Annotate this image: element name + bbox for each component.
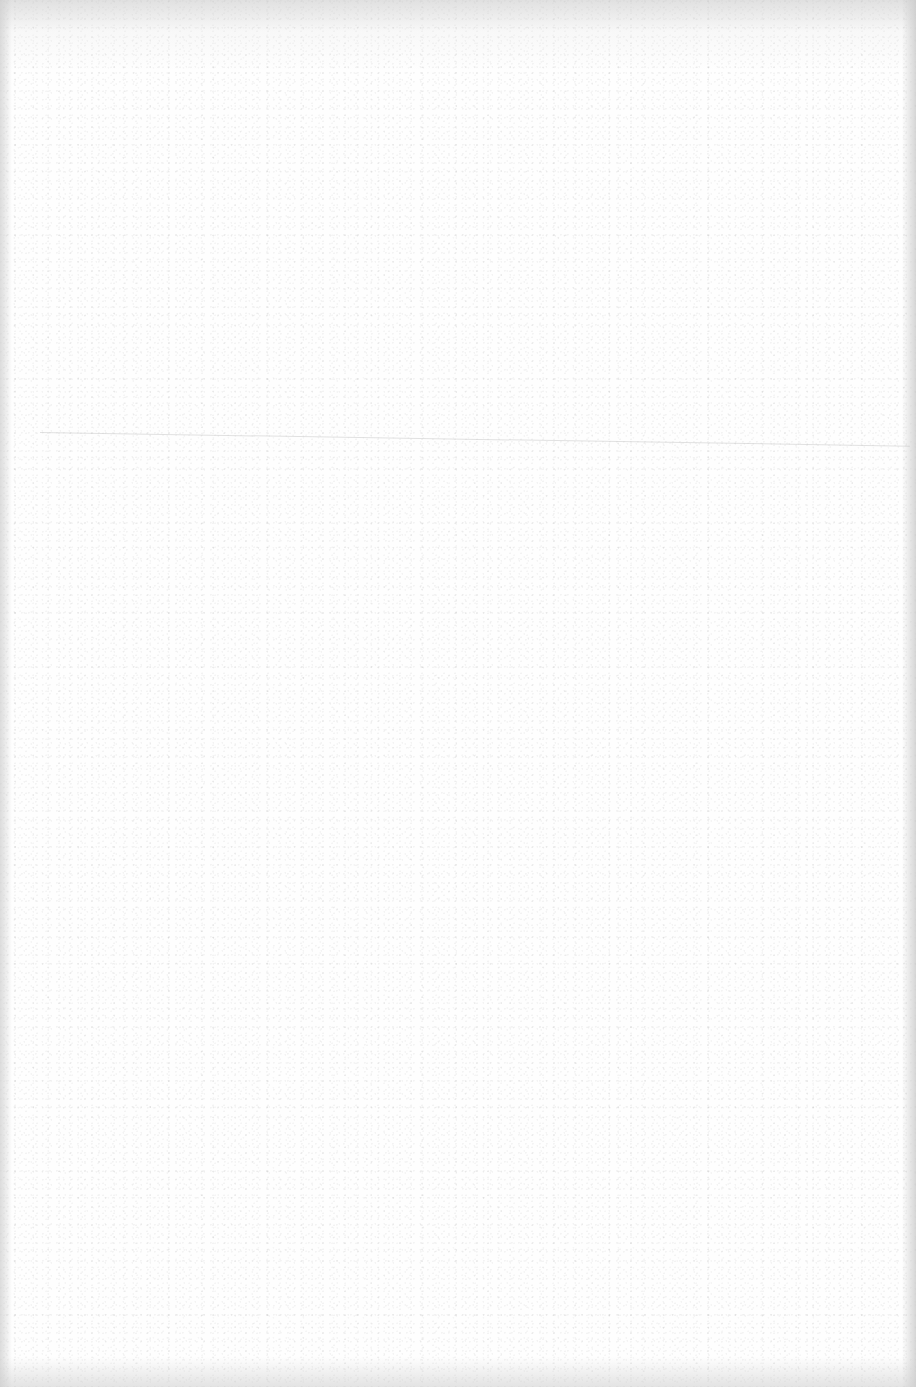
right-edge-shadow: [902, 0, 916, 1387]
left-edge-shadow: [0, 0, 12, 1387]
scan-noise: [0, 0, 916, 1387]
bottom-edge-shadow: [0, 1357, 916, 1387]
top-edge-shadow: [0, 0, 916, 70]
blank-scanned-page: [0, 0, 916, 1387]
